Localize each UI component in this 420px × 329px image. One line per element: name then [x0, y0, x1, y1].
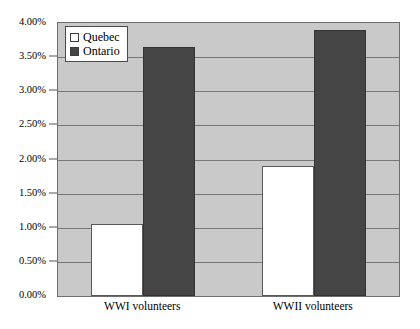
y-axis-tick-mark — [49, 124, 57, 125]
chart-legend: Quebec Ontario — [65, 26, 128, 62]
legend-label-quebec: Quebec — [83, 31, 120, 43]
y-axis-tick-mark — [49, 158, 57, 159]
y-axis-tick-mark — [49, 260, 57, 261]
legend-item-quebec: Quebec — [70, 30, 120, 44]
y-axis-tick-mark — [49, 56, 57, 57]
y-axis-tick-label: 0.50% — [19, 256, 46, 267]
bar-ontario-1 — [314, 30, 366, 296]
y-axis-tick-label: 3.50% — [19, 51, 46, 62]
legend-item-ontario: Ontario — [70, 44, 120, 58]
x-axis-label-1: WWII volunteers — [273, 301, 353, 313]
x-axis-category-labels: WWI volunteersWWII volunteers — [57, 301, 400, 325]
y-axis-tick-mark — [49, 226, 57, 227]
y-axis-tick-label: 1.00% — [19, 222, 46, 233]
y-axis-tick-label: 1.50% — [19, 187, 46, 198]
y-axis: 0.00%0.50%1.00%1.50%2.00%2.50%3.00%3.50%… — [0, 22, 57, 297]
y-axis-tick-mark — [49, 192, 57, 193]
legend-label-ontario: Ontario — [83, 45, 120, 57]
legend-swatch-quebec-icon — [70, 33, 79, 42]
legend-swatch-ontario-icon — [70, 47, 79, 56]
y-axis-tick-label: 2.00% — [19, 153, 46, 164]
x-axis-label-0: WWI volunteers — [104, 301, 180, 313]
bar-quebec-0 — [91, 224, 143, 296]
y-axis-tick-label: 0.00% — [19, 290, 46, 301]
bar-ontario-0 — [143, 47, 195, 296]
y-axis-tick-label: 2.50% — [19, 119, 46, 130]
y-axis-tick-label: 3.00% — [19, 85, 46, 96]
bar-chart: 0.00%0.50%1.00%1.50%2.00%2.50%3.00%3.50%… — [0, 0, 420, 329]
bar-quebec-1 — [262, 166, 314, 296]
y-axis-tick-label: 4.00% — [19, 17, 46, 28]
y-axis-tick-mark — [49, 90, 57, 91]
plot-area — [57, 22, 400, 297]
